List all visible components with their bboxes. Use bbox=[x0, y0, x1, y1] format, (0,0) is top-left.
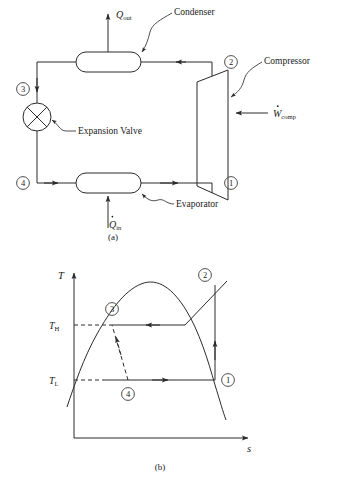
evaporator-component[interactable] bbox=[76, 173, 141, 193]
compressor-label: Compressor bbox=[264, 56, 311, 66]
expansion-valve-leader-line bbox=[52, 120, 76, 131]
evaporator-leader-line bbox=[142, 194, 174, 204]
compressor-component[interactable] bbox=[197, 70, 228, 200]
figure-canvas: Qout Qin Wcomp bbox=[0, 0, 341, 478]
th-tick-label: TH bbox=[49, 320, 60, 332]
evaporator-label: Evaporator bbox=[176, 199, 219, 209]
ts-axes bbox=[74, 273, 248, 438]
q-in-label: Qin bbox=[109, 216, 122, 232]
expansion-valve-label: Expansion Valve bbox=[78, 126, 142, 136]
caption-panel-b: (b) bbox=[155, 462, 166, 472]
panel-a-schematic: Qout Qin Wcomp bbox=[17, 7, 311, 242]
svg-text:1: 1 bbox=[229, 178, 233, 188]
svg-text:4: 4 bbox=[21, 178, 26, 188]
svg-text:3: 3 bbox=[110, 304, 114, 314]
svg-text:4: 4 bbox=[126, 389, 131, 399]
ts-state-node-2: 2 bbox=[199, 269, 212, 282]
process-3-4-throttling bbox=[112, 325, 128, 380]
refrigeration-cycle-figure: Qout Qin Wcomp bbox=[0, 0, 341, 478]
y-axis-label: T bbox=[58, 270, 65, 281]
svg-text:1: 1 bbox=[226, 375, 230, 385]
caption-panel-a: (a) bbox=[108, 232, 118, 242]
expansion-valve-component[interactable] bbox=[23, 103, 51, 131]
ts-state-node-1: 1 bbox=[222, 374, 235, 387]
svg-text:2: 2 bbox=[203, 270, 207, 280]
x-axis-label: s bbox=[247, 443, 251, 454]
panel-b-ts-diagram: T s TH TL bbox=[49, 269, 251, 472]
svg-text:Qin: Qin bbox=[109, 219, 122, 231]
q-out-label: Qout bbox=[116, 9, 132, 21]
condenser-component[interactable] bbox=[76, 52, 141, 72]
pipe-condenser-to-compressor bbox=[141, 62, 212, 76]
compressor-leader-line bbox=[231, 62, 262, 97]
pipe-valve-to-evaporator bbox=[37, 131, 76, 183]
condenser-leader-line bbox=[142, 13, 172, 52]
ts-state-node-3: 3 bbox=[106, 303, 119, 316]
state-node-4: 4 bbox=[17, 177, 30, 190]
tl-tick-label: TL bbox=[49, 375, 59, 387]
condenser-label: Condenser bbox=[174, 7, 215, 17]
ts-state-node-4: 4 bbox=[122, 388, 135, 401]
pipe-condenser-to-valve bbox=[37, 62, 76, 103]
superheat-line bbox=[185, 281, 227, 325]
state-node-3: 3 bbox=[17, 83, 30, 96]
state-node-2: 2 bbox=[225, 56, 238, 69]
svg-text:2: 2 bbox=[229, 57, 233, 67]
w-comp-label: Wcomp bbox=[273, 105, 297, 120]
state-node-1: 1 bbox=[225, 177, 238, 190]
svg-text:Wcomp: Wcomp bbox=[273, 108, 297, 120]
svg-text:3: 3 bbox=[21, 84, 25, 94]
saturation-dome-curve bbox=[67, 282, 226, 420]
